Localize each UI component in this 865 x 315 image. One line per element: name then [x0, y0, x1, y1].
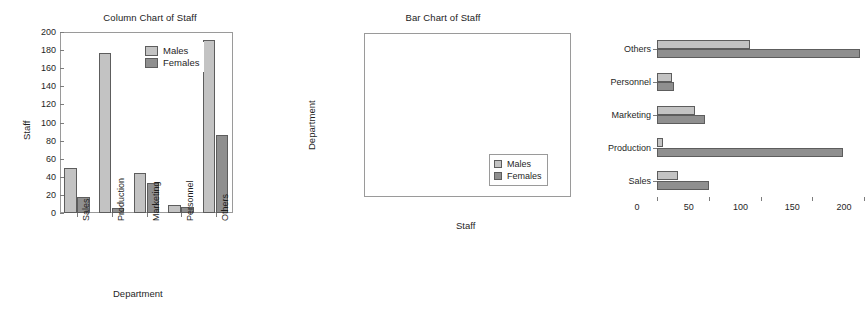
legend-label-males: Males — [163, 46, 188, 56]
x-tick-label: Sales — [81, 198, 91, 221]
legend-label-females: Females — [163, 58, 199, 68]
x-tick-label: Production — [116, 178, 126, 221]
x-tick-label: 0 — [617, 202, 657, 212]
column-chart-legend: Males Females — [141, 42, 204, 72]
y-tick-mark — [653, 115, 657, 116]
bar-sales-males — [64, 168, 77, 213]
legend-label-males: Males — [507, 159, 531, 169]
legend-label-females: Females — [507, 171, 542, 181]
bar-chart-title: Bar Chart of Staff — [293, 12, 593, 23]
y-tick-label: 180 — [26, 45, 56, 55]
x-tick-mark — [657, 197, 658, 201]
y-tick-mark — [653, 148, 657, 149]
y-tick-mark — [60, 213, 64, 214]
x-tick-label: 200 — [824, 202, 864, 212]
y-tick-mark — [60, 123, 64, 124]
column-chart-x-axis-title: Department — [113, 288, 163, 299]
bar-marketing-females — [657, 115, 705, 124]
x-tick-label: 150 — [772, 202, 812, 212]
y-tick-label: 200 — [26, 27, 56, 37]
bar-chart-y-axis-title: Department — [306, 100, 317, 150]
x-tick-label: Marketing — [151, 181, 161, 221]
bar-marketing-males — [657, 106, 695, 115]
legend-entry-males: Males — [494, 158, 542, 170]
bar-production-males — [99, 53, 112, 213]
bar-marketing-males — [134, 173, 147, 213]
bar-chart-legend: Males Females — [489, 154, 548, 186]
legend-swatch-females-icon — [145, 58, 158, 68]
x-tick-mark — [216, 213, 217, 217]
x-tick-mark — [77, 213, 78, 217]
y-tick-mark — [60, 32, 64, 33]
bar-others-males — [203, 40, 216, 213]
y-tick-mark — [653, 181, 657, 182]
y-tick-label: 60 — [26, 154, 56, 164]
y-tick-label: 40 — [26, 172, 56, 182]
x-tick-mark — [147, 213, 148, 217]
legend-swatch-males-icon — [494, 160, 502, 168]
bar-personnel-females — [657, 82, 674, 91]
y-tick-label: 160 — [26, 63, 56, 73]
bar-sales-males — [657, 171, 678, 180]
x-tick-mark — [112, 213, 113, 217]
y-tick-label: Personnel — [581, 77, 651, 87]
y-tick-label: Marketing — [581, 110, 651, 120]
legend-swatch-females-icon — [494, 172, 502, 180]
bar-others-females — [657, 49, 860, 58]
x-tick-label: Others — [220, 194, 230, 221]
y-tick-mark — [60, 141, 64, 142]
bar-production-females — [657, 148, 843, 157]
y-tick-mark — [60, 68, 64, 69]
column-chart-y-axis-title: Staff — [21, 121, 32, 140]
x-tick-mark — [812, 197, 813, 201]
y-tick-label: 120 — [26, 99, 56, 109]
y-tick-mark — [60, 104, 64, 105]
bar-chart-panel: Bar Chart of Staff 050100150200 OthersPe… — [293, 0, 593, 315]
y-tick-mark — [653, 82, 657, 83]
bar-personnel-males — [657, 73, 672, 82]
x-tick-mark — [181, 213, 182, 217]
y-tick-mark — [60, 159, 64, 160]
x-tick-mark — [709, 197, 710, 201]
y-tick-label: Sales — [581, 176, 651, 186]
column-chart-title: Column Chart of Staff — [0, 12, 300, 23]
bar-others-males — [657, 40, 750, 49]
column-chart-panel: Column Chart of Staff 020406080100120140… — [0, 0, 300, 315]
y-tick-label: Others — [581, 44, 651, 54]
legend-swatch-males-icon — [145, 46, 158, 56]
legend-entry-females: Females — [494, 170, 542, 182]
y-tick-label: 140 — [26, 81, 56, 91]
bar-sales-females — [657, 181, 709, 190]
bar-production-males — [657, 138, 663, 147]
x-tick-label: 100 — [721, 202, 761, 212]
y-tick-label: Production — [581, 143, 651, 153]
y-tick-mark — [653, 49, 657, 50]
x-tick-mark — [761, 197, 762, 201]
legend-entry-males: Males — [145, 45, 199, 57]
bar-chart-x-axis-title: Staff — [456, 220, 475, 231]
y-tick-label: 20 — [26, 190, 56, 200]
y-tick-label: 0 — [26, 208, 56, 218]
bar-personnel-males — [168, 205, 181, 213]
legend-entry-females: Females — [145, 57, 199, 69]
x-tick-label: Personnel — [185, 180, 195, 221]
y-tick-mark — [60, 50, 64, 51]
x-tick-label: 50 — [669, 202, 709, 212]
y-tick-mark — [60, 86, 64, 87]
